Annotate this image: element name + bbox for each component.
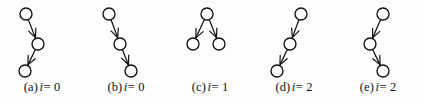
graph-node-top [295, 8, 307, 20]
graph-edge [373, 20, 381, 38]
caption-value: 0 [54, 80, 60, 94]
graph-svg-c [168, 0, 252, 80]
graph-node-top [103, 8, 115, 20]
graph-node-bottom [19, 65, 31, 77]
graph-node-top [20, 8, 32, 20]
caption-value: 1 [222, 80, 228, 94]
graph-node-middle [114, 38, 126, 50]
panel-caption-d: (d)i= 2 [252, 80, 336, 95]
panel-caption-b: (b)i= 0 [84, 80, 168, 95]
graph-svg-e [336, 0, 420, 80]
panel-caption-c: (c)i= 1 [168, 80, 252, 95]
graph-node-child-right [213, 38, 225, 50]
caption-value: 0 [138, 80, 144, 94]
graph-edge [28, 50, 35, 65]
graph-node-top [377, 8, 389, 20]
graph-node-middle [32, 38, 44, 50]
caption-equals: = [44, 80, 51, 94]
caption-value: 2 [390, 80, 396, 94]
graph-node-bottom [377, 65, 389, 77]
caption-value: 2 [306, 80, 312, 94]
graph-svg-d [252, 0, 336, 80]
graph-node-middle [364, 38, 376, 50]
figure-container: (a)i= 0(b)i= 0(c)i= 1(d)i= 2(e)i= 2 [0, 0, 423, 105]
figure-panel-c: (c)i= 1 [168, 0, 252, 105]
caption-equals: = [128, 80, 135, 94]
caption-label: (e) [360, 80, 374, 94]
graph-diagram-c [168, 0, 252, 80]
graph-diagram-d [252, 0, 336, 80]
caption-equals: = [380, 80, 387, 94]
caption-equals: = [212, 80, 219, 94]
graph-node-bottom [125, 65, 137, 77]
caption-label: (b) [107, 80, 122, 94]
figure-panel-b: (b)i= 0 [84, 0, 168, 105]
graph-node-child-left [187, 38, 199, 50]
panel-caption-e: (e)i= 2 [336, 80, 420, 95]
graph-svg-b [84, 0, 168, 80]
graph-node-bottom [271, 65, 283, 77]
graph-edge [280, 50, 287, 65]
panel-caption-a: (a)i= 0 [0, 80, 84, 95]
caption-label: (a) [24, 80, 38, 94]
caption-equals: = [296, 80, 303, 94]
graph-svg-a [0, 0, 84, 80]
graph-edge [196, 20, 204, 38]
graph-node-middle [284, 38, 296, 50]
figure-panel-e: (e)i= 2 [336, 0, 420, 105]
graph-diagram-a [0, 0, 84, 80]
graph-edge [373, 50, 380, 65]
figure-panel-d: (d)i= 2 [252, 0, 336, 105]
figure-panel-a: (a)i= 0 [0, 0, 84, 105]
graph-diagram-b [84, 0, 168, 80]
graph-node-parent [201, 8, 213, 20]
caption-label: (c) [192, 80, 206, 94]
caption-label: (d) [275, 80, 290, 94]
graph-diagram-e [336, 0, 420, 80]
